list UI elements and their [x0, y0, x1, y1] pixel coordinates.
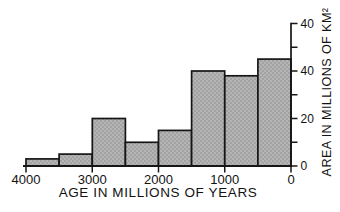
x-tick-label: 0	[287, 172, 294, 187]
x-axis-title: AGE IN MILLIONS OF YEARS	[59, 185, 258, 200]
histogram-bar	[225, 76, 258, 166]
bars-group	[26, 59, 291, 166]
histogram-bar	[125, 142, 158, 166]
y-tick-label: 20	[301, 112, 315, 126]
y-axis-title: AREA IN MILLIONS OF KM²	[320, 8, 334, 177]
histogram-figure: 400030002000100000204040 AGE IN MILLIONS…	[0, 0, 340, 212]
x-tick-label: 4000	[12, 172, 41, 187]
histogram-bar	[258, 59, 291, 166]
y-tick-label: 40	[301, 64, 315, 78]
histogram-bar	[59, 154, 92, 166]
histogram-bar	[192, 71, 225, 166]
y-tick-label: 40	[301, 17, 315, 31]
y-tick-label: 0	[301, 159, 308, 173]
histogram-bar	[26, 159, 59, 166]
histogram-bar	[92, 119, 125, 167]
chart-svg: 400030002000100000204040 AGE IN MILLIONS…	[0, 0, 340, 212]
histogram-bar	[159, 130, 192, 166]
